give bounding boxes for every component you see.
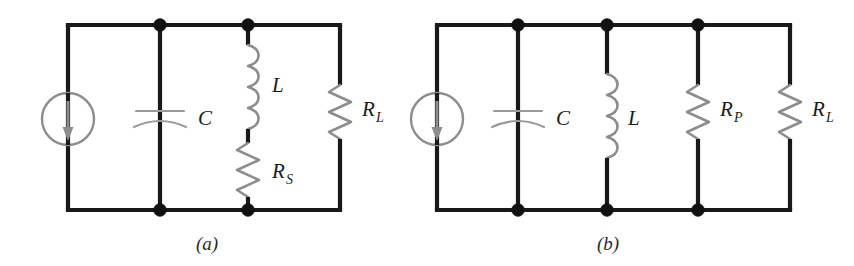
resistor-rs-a-subscript: S	[286, 172, 293, 187]
inductor-coils-icon	[607, 74, 618, 158]
capacitor-a-label: C	[198, 106, 213, 130]
resistor-zigzag-icon	[687, 85, 709, 139]
inductor-b	[607, 74, 618, 158]
resistor-rp-b	[687, 85, 709, 139]
resistor-rl-b-label: R	[811, 97, 825, 121]
inductor-b-label: L	[627, 106, 640, 130]
node-dot	[512, 19, 524, 31]
circuit-b: C L R P R L (b)	[411, 19, 834, 255]
resistor-rl-b	[779, 85, 801, 139]
node-dot	[242, 204, 254, 216]
current-source-a	[42, 93, 94, 145]
inductor-a-label: L	[271, 73, 284, 97]
resistor-rs-a	[237, 143, 259, 197]
resistor-zigzag-icon	[779, 85, 801, 139]
circuit-figure: C L R S R L (a)	[0, 0, 854, 266]
resistor-rl-a-subscript: L	[375, 110, 384, 125]
circuit-a: C L R S R L (a)	[42, 19, 384, 255]
node-dot	[154, 204, 166, 216]
caption-b: (b)	[597, 233, 619, 255]
inductor-a	[248, 45, 259, 129]
inductor-coils-icon	[248, 45, 259, 129]
node-dot	[601, 19, 613, 31]
capacitor-b-label: C	[556, 106, 571, 130]
node-dot	[692, 204, 704, 216]
resistor-zigzag-icon	[329, 85, 351, 139]
current-source-b	[411, 93, 463, 145]
node-dot	[512, 204, 524, 216]
circuit-diagram-canvas: C L R S R L (a)	[0, 0, 854, 266]
resistor-rl-a	[329, 85, 351, 139]
node-dot	[154, 19, 166, 31]
resistor-zigzag-icon	[237, 143, 259, 197]
node-dot	[601, 204, 613, 216]
caption-a: (a)	[196, 233, 218, 255]
resistor-rp-b-label: R	[719, 97, 733, 121]
node-dot	[242, 19, 254, 31]
resistor-rs-a-label: R	[271, 159, 285, 183]
resistor-rp-b-subscript: P	[733, 110, 743, 125]
resistor-rl-b-subscript: L	[825, 110, 834, 125]
resistor-rl-a-label: R	[361, 97, 375, 121]
node-dot	[692, 19, 704, 31]
